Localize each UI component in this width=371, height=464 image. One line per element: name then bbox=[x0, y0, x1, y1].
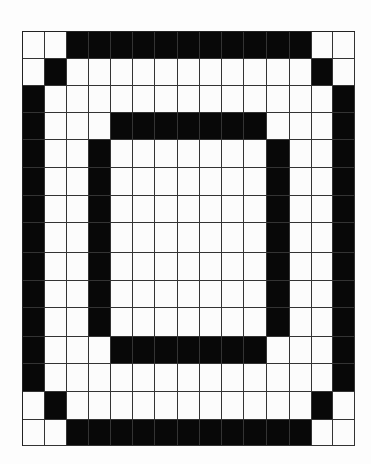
filled-cell bbox=[89, 281, 111, 308]
filled-cell bbox=[333, 364, 355, 392]
empty-cell bbox=[133, 168, 155, 196]
empty-cell bbox=[290, 59, 312, 86]
filled-cell bbox=[244, 337, 267, 364]
empty-cell bbox=[222, 86, 244, 113]
filled-cell bbox=[155, 337, 178, 364]
empty-cell bbox=[155, 223, 178, 253]
filled-cell bbox=[267, 32, 290, 59]
empty-cell bbox=[312, 223, 333, 253]
empty-cell bbox=[111, 196, 133, 223]
empty-cell bbox=[155, 392, 178, 420]
empty-cell bbox=[155, 168, 178, 196]
empty-cell bbox=[267, 86, 290, 113]
empty-cell bbox=[244, 59, 267, 86]
empty-cell bbox=[67, 364, 89, 392]
filled-cell bbox=[89, 196, 111, 223]
empty-cell bbox=[45, 337, 67, 364]
filled-cell bbox=[267, 223, 290, 253]
empty-cell bbox=[244, 196, 267, 223]
filled-cell bbox=[312, 59, 333, 86]
empty-cell bbox=[133, 281, 155, 308]
empty-cell bbox=[133, 223, 155, 253]
empty-cell bbox=[312, 337, 333, 364]
empty-cell bbox=[222, 140, 244, 168]
empty-cell bbox=[312, 281, 333, 308]
filled-cell bbox=[333, 168, 355, 196]
empty-cell bbox=[67, 196, 89, 223]
empty-cell bbox=[290, 113, 312, 140]
filled-cell bbox=[111, 113, 133, 140]
empty-cell bbox=[111, 364, 133, 392]
empty-cell bbox=[200, 86, 222, 113]
empty-cell bbox=[290, 253, 312, 281]
empty-cell bbox=[312, 32, 333, 59]
filled-cell bbox=[200, 420, 222, 446]
filled-cell bbox=[178, 32, 200, 59]
filled-cell bbox=[333, 337, 355, 364]
filled-cell bbox=[244, 420, 267, 446]
empty-cell bbox=[200, 223, 222, 253]
empty-cell bbox=[89, 337, 111, 364]
empty-cell bbox=[67, 308, 89, 337]
empty-cell bbox=[290, 168, 312, 196]
empty-cell bbox=[67, 140, 89, 168]
filled-cell bbox=[23, 253, 45, 281]
empty-cell bbox=[155, 59, 178, 86]
empty-cell bbox=[267, 392, 290, 420]
filled-cell bbox=[67, 32, 89, 59]
empty-cell bbox=[45, 364, 67, 392]
empty-cell bbox=[290, 223, 312, 253]
filled-cell bbox=[333, 196, 355, 223]
empty-cell bbox=[23, 32, 45, 59]
empty-cell bbox=[45, 253, 67, 281]
empty-cell bbox=[111, 281, 133, 308]
empty-cell bbox=[200, 364, 222, 392]
empty-cell bbox=[222, 196, 244, 223]
empty-cell bbox=[155, 364, 178, 392]
empty-cell bbox=[111, 253, 133, 281]
empty-cell bbox=[111, 86, 133, 113]
filled-cell bbox=[133, 32, 155, 59]
empty-cell bbox=[200, 140, 222, 168]
empty-cell bbox=[178, 223, 200, 253]
empty-cell bbox=[45, 140, 67, 168]
filled-cell bbox=[333, 140, 355, 168]
empty-cell bbox=[45, 86, 67, 113]
empty-cell bbox=[155, 86, 178, 113]
empty-cell bbox=[67, 253, 89, 281]
empty-cell bbox=[155, 281, 178, 308]
empty-cell bbox=[178, 281, 200, 308]
empty-cell bbox=[312, 253, 333, 281]
empty-cell bbox=[267, 364, 290, 392]
empty-cell bbox=[178, 196, 200, 223]
empty-cell bbox=[133, 253, 155, 281]
empty-cell bbox=[312, 364, 333, 392]
empty-cell bbox=[155, 140, 178, 168]
empty-cell bbox=[244, 364, 267, 392]
filled-cell bbox=[222, 32, 244, 59]
empty-cell bbox=[312, 420, 333, 446]
empty-cell bbox=[133, 392, 155, 420]
filled-cell bbox=[312, 392, 333, 420]
empty-cell bbox=[200, 59, 222, 86]
empty-cell bbox=[67, 113, 89, 140]
filled-cell bbox=[67, 420, 89, 446]
empty-cell bbox=[290, 364, 312, 392]
empty-cell bbox=[312, 196, 333, 223]
filled-cell bbox=[222, 113, 244, 140]
filled-cell bbox=[267, 140, 290, 168]
filled-cell bbox=[200, 113, 222, 140]
filled-cell bbox=[23, 86, 45, 113]
empty-cell bbox=[133, 308, 155, 337]
empty-cell bbox=[222, 59, 244, 86]
filled-cell bbox=[222, 420, 244, 446]
empty-cell bbox=[133, 86, 155, 113]
filled-cell bbox=[333, 86, 355, 113]
filled-cell bbox=[111, 420, 133, 446]
empty-cell bbox=[267, 59, 290, 86]
empty-cell bbox=[312, 86, 333, 113]
empty-cell bbox=[267, 113, 290, 140]
filled-cell bbox=[89, 32, 111, 59]
filled-cell bbox=[133, 337, 155, 364]
empty-cell bbox=[111, 392, 133, 420]
